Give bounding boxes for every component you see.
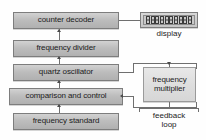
display-caption: display: [140, 30, 198, 39]
connector-multiplier-in-right: [196, 63, 197, 69]
feedback-loop-bracket: [139, 108, 199, 112]
arrow-up-icon: [57, 104, 61, 107]
arrow-down-icon: [167, 62, 171, 65]
arrow-up-icon: [57, 80, 61, 83]
connector-feedback-riser: [133, 96, 134, 108]
display-digit: [188, 16, 192, 24]
display-digit: [169, 16, 173, 24]
display-digit: [165, 16, 169, 24]
connector-quartz-out-vertical: [133, 63, 134, 73]
feedback-caption-line-1: feedback: [153, 111, 185, 120]
connector-counter-to-display: [119, 20, 140, 21]
display-digit: [146, 16, 150, 24]
display-digit: [155, 16, 159, 24]
display-digit: [179, 16, 183, 24]
block-quartz-oscillator[interactable]: quartz oscillator: [13, 64, 119, 81]
display-digit: [151, 16, 155, 24]
display-digit: [183, 16, 187, 24]
block-comparison-and-control[interactable]: comparison and control: [9, 88, 123, 105]
display-digit: [160, 16, 164, 24]
arrow-up-icon: [57, 56, 61, 59]
arrow-up-icon: [57, 29, 61, 32]
block-frequency-divider[interactable]: frequency divider: [13, 40, 119, 57]
connector-feedback-into-comparison: [123, 96, 134, 97]
block-frequency-multiplier[interactable]: frequency multiplier: [143, 67, 196, 102]
quartz-clock-block-diagram: counter decoder frequency divider quartz…: [0, 0, 206, 140]
block-counter-decoder[interactable]: counter decoder: [13, 12, 119, 29]
connector-quartz-top-rail: [133, 63, 196, 64]
block-frequency-standard[interactable]: frequency standard: [13, 113, 119, 130]
connector-quartz-out-horizontal: [119, 72, 133, 73]
display-digit: [174, 16, 178, 24]
feedback-caption-line-2: loop: [161, 120, 176, 129]
feedback-loop-caption: feedback loop: [136, 112, 202, 130]
block-digital-display[interactable]: [140, 12, 198, 28]
arrow-right-icon: [120, 94, 123, 98]
display-digit-row: [143, 15, 195, 25]
